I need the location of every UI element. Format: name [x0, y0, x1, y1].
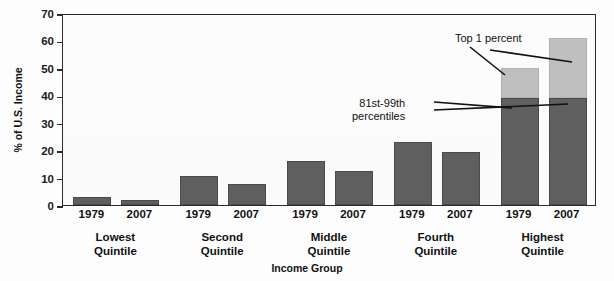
bar-segment-lower [442, 152, 480, 205]
bar-segment-lower [394, 142, 432, 205]
y-tick-label: 20 [30, 145, 54, 157]
bar-segment-lower [121, 200, 159, 205]
x-group-label-line2: Quintile [521, 244, 564, 258]
bar-lowest-1979 [73, 197, 111, 205]
x-tick-year-label: 1979 [79, 208, 105, 220]
x-group-label-line1: Middle [308, 230, 351, 244]
bar-segment-lower [287, 161, 325, 205]
x-tick-year-label: 2007 [340, 208, 366, 220]
x-group-label: FourthQuintile [414, 230, 457, 258]
y-tick-label: 30 [30, 118, 54, 130]
bar-highest-1979 [501, 68, 539, 205]
bar-middle-2007 [335, 171, 373, 205]
bar-segment-lower [73, 197, 111, 205]
x-tick-year-label: 1979 [292, 208, 318, 220]
annotation-81st-99th-line1: 81st-99th [352, 97, 405, 110]
y-tick-label: 40 [30, 90, 54, 102]
x-axis-labels: 19792007LowestQuintile19792007SecondQuin… [62, 208, 596, 268]
y-axis-title: % of U.S. Income [12, 67, 24, 152]
y-tick-label: 70 [30, 8, 54, 20]
x-group-label-line1: Highest [521, 230, 564, 244]
x-tick-year-label: 1979 [506, 208, 532, 220]
bar-segment-upper [501, 68, 539, 98]
x-group-label: LowestQuintile [94, 230, 137, 258]
x-group-label-line2: Quintile [414, 244, 457, 258]
y-tick-label: 50 [30, 63, 54, 75]
y-tick-label: 0 [30, 200, 54, 212]
y-tick-label: 60 [30, 35, 54, 47]
x-group-label-line1: Fourth [414, 230, 457, 244]
bar-fourth-1979 [394, 142, 432, 205]
y-tick-mark [57, 124, 63, 126]
bar-middle-1979 [287, 161, 325, 205]
bar-fourth-2007 [442, 152, 480, 205]
bar-segment-lower [501, 98, 539, 205]
bar-highest-2007 [549, 38, 587, 205]
x-group-label: MiddleQuintile [308, 230, 351, 258]
bar-segment-lower [228, 184, 266, 205]
x-group-label-line2: Quintile [308, 244, 351, 258]
y-tick-mark [57, 69, 63, 71]
bar-segment-lower [549, 98, 587, 205]
bar-second-1979 [180, 176, 218, 205]
y-tick-label: 10 [30, 173, 54, 185]
x-group-label: HighestQuintile [521, 230, 564, 258]
x-tick-year-label: 2007 [233, 208, 259, 220]
bar-segment-lower [180, 176, 218, 205]
x-group-label-line2: Quintile [94, 244, 137, 258]
x-tick-year-label: 1979 [185, 208, 211, 220]
bar-segment-lower [335, 171, 373, 205]
x-tick-year-label: 2007 [447, 208, 473, 220]
x-group-label: SecondQuintile [201, 230, 244, 258]
bar-second-2007 [228, 184, 266, 205]
y-tick-mark [57, 179, 63, 181]
y-axis-title-wrap: % of U.S. Income [18, 14, 19, 206]
x-group-label-line1: Second [201, 230, 244, 244]
y-tick-mark [57, 151, 63, 153]
x-tick-year-label: 1979 [399, 208, 425, 220]
bar-segment-upper [549, 38, 587, 98]
x-axis-title: Income Group [271, 262, 342, 274]
annotation-81st-99th-line2: percentiles [352, 110, 405, 123]
x-group-label-line1: Lowest [94, 230, 137, 244]
y-tick-mark [57, 14, 63, 16]
y-tick-mark [57, 42, 63, 44]
bar-lowest-2007 [121, 200, 159, 205]
annotation-81st-99th-percentiles: 81st-99th percentiles [352, 97, 405, 123]
y-tick-mark [57, 97, 63, 99]
annotation-top-1-percent: Top 1 percent [455, 32, 522, 45]
chart-container: % of U.S. Income 010203040506070 1979200… [0, 0, 614, 281]
x-group-label-line2: Quintile [201, 244, 244, 258]
x-tick-year-label: 2007 [127, 208, 153, 220]
x-tick-year-label: 2007 [554, 208, 580, 220]
